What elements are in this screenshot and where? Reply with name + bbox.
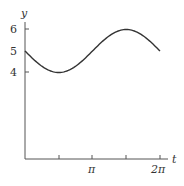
y-axis-label: y [20, 7, 28, 20]
x-axis-label: t [172, 153, 177, 166]
y-tick-label-4: 4 [10, 66, 17, 79]
x-tick-label-pi: π [87, 163, 96, 176]
x-tick-label-two-pi: 2π [150, 163, 166, 176]
y-tick-label-6: 6 [10, 23, 17, 36]
y-tick-label-5: 5 [10, 45, 17, 58]
data-curve [25, 30, 160, 73]
chart: y t 6 5 4 π 2π [0, 0, 184, 186]
